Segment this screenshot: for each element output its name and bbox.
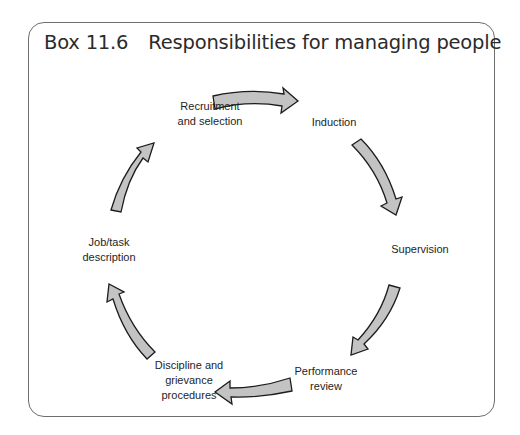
node-label-line: Job/task: [82, 235, 135, 250]
node-label-line: Induction: [312, 115, 357, 130]
node-label-line: and selection: [178, 114, 243, 129]
node-discipline-and-grievance-procedures: Discipline and grievance procedures: [155, 358, 223, 403]
node-supervision: Supervision: [391, 242, 448, 257]
node-label-line: description: [82, 250, 135, 265]
node-label-line: review: [295, 379, 358, 394]
node-label-line: Recruitment: [178, 99, 243, 114]
arrow-induction-to-supervision-icon: [352, 139, 402, 215]
node-induction: Induction: [312, 115, 357, 130]
cycle-diagram: [0, 0, 520, 435]
arrow-performance-to-discipline-icon: [215, 378, 292, 404]
node-label-line: Supervision: [391, 242, 448, 257]
node-job-task-description: Job/task description: [82, 235, 135, 265]
arrow-discipline-to-jobtask-icon: [107, 284, 155, 359]
node-performance-review: Performance review: [295, 364, 358, 394]
arrow-jobtask-to-recruitment-icon: [111, 143, 154, 212]
node-label-line: procedures: [155, 388, 223, 403]
node-label-line: Performance: [295, 364, 358, 379]
node-label-line: Discipline and: [155, 358, 223, 373]
node-recruitment-and-selection: Recruitment and selection: [178, 99, 243, 129]
node-label-line: grievance: [155, 373, 223, 388]
arrow-supervision-to-performance-icon: [351, 285, 400, 355]
